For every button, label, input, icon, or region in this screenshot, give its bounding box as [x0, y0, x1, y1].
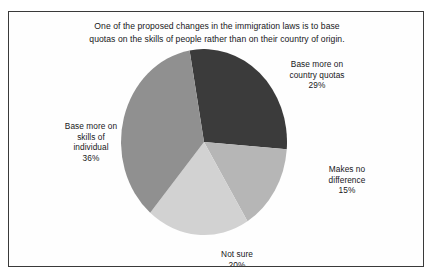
pie-label-not-sure-value: 20% — [189, 260, 285, 267]
pie-label-skills-individual-line-1: Base more on — [37, 121, 145, 132]
pie-chart-svg — [121, 49, 287, 235]
pie-label-country-quotas-line-2: country quotas — [265, 70, 369, 81]
pie-label-country-quotas: Base more on country quotas 29% — [265, 59, 369, 91]
pie-label-country-quotas-line-1: Base more on — [265, 59, 369, 70]
pie-label-makes-no-difference: Makes no difference 15% — [299, 164, 395, 196]
pie-label-not-sure: Not sure 20% — [189, 249, 285, 267]
pie-label-not-sure-line-1: Not sure — [189, 249, 285, 260]
pie-label-makes-no-difference-value: 15% — [299, 185, 395, 196]
pie-chart-figure: One of the proposed changes in the immig… — [8, 11, 424, 267]
pie-label-skills-individual-value: 36% — [37, 153, 145, 164]
pie-chart-area: Base more on country quotas 29% Makes no… — [9, 12, 424, 267]
pie-label-skills-individual: Base more on skills of individual 36% — [37, 121, 145, 163]
pie-label-makes-no-difference-line-1: Makes no — [299, 164, 395, 175]
pie-label-country-quotas-value: 29% — [265, 80, 369, 91]
pie-label-skills-individual-line-3: individual — [37, 142, 145, 153]
pie-label-makes-no-difference-line-2: difference — [299, 175, 395, 186]
pie-label-skills-individual-line-2: skills of — [37, 132, 145, 143]
